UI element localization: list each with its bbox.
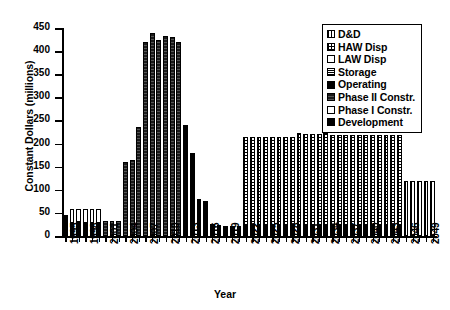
y-axis-tick-label: 250 [33,113,50,124]
bar-segment-haw-disp [377,135,382,226]
legend-swatch-icon [327,81,335,89]
legend-label: Phase II Constr. [338,91,415,104]
x-axis-tick-mark [166,238,167,242]
x-axis-tick-label: 2040 [370,223,381,244]
bar-segment-phase-ii-constr [136,127,141,236]
y-axis-tick-label: 350 [33,67,50,78]
x-axis-tick-mark [426,238,427,242]
legend-label: Development [338,116,403,129]
x-axis-tick-label: 2025 [270,223,281,244]
bar-segment-d-d [404,181,409,236]
bar-segment-haw-disp [363,135,368,226]
x-axis-tick-mark [366,238,367,242]
y-axis-tick: 450 [0,28,62,29]
y-axis-tick-mark [55,213,62,215]
x-axis-tick-label: 2004 [129,223,140,244]
x-axis-tick-label: 2001 [109,223,120,244]
y-axis-tick: 350 [0,74,62,75]
bar-2039 [357,135,362,236]
chart-legend: D&DHAW DispLAW DispStorageOperatingPhase… [322,24,422,133]
bar-2044 [390,135,395,236]
x-axis-tick-mark [105,238,106,242]
x-axis-tick-mark [246,238,247,242]
bar-segment-haw-disp [283,137,288,226]
bar-segment-haw-disp [317,134,322,226]
bar-segment-operating [223,226,228,236]
bar-2006 [136,127,141,236]
x-axis-tick-mark [85,238,86,242]
legend-swatch-icon [327,43,335,51]
x-axis-tick-label: 2037 [350,223,361,244]
bar-segment-haw-disp [243,137,248,226]
y-axis-tick-label: 100 [33,183,50,194]
bar-2026 [270,137,275,236]
bar-2010 [163,36,168,236]
x-axis-tick-mark [386,238,387,242]
y-axis-tick-label: 150 [33,160,50,171]
legend-swatch-icon [327,68,335,76]
bar-segment-haw-disp [257,137,262,226]
bar-segment-haw-disp [397,135,402,226]
bar-segment-operating [384,226,389,236]
y-axis-tick: 0 [0,236,62,237]
x-axis-tick-label: 2049 [430,223,441,244]
bar-segment-haw-disp [343,135,348,226]
y-axis-tick-label: 400 [33,44,50,55]
y-axis-tick-mark [55,74,62,76]
bar-segment-haw-disp [390,135,395,226]
x-axis-tick-label: 2046 [410,223,421,244]
bar-1998 [83,209,88,236]
x-axis-tick-mark [186,238,187,242]
bar-segment-haw-disp [384,135,389,226]
bar-segment-operating [323,226,328,236]
bar-2040 [363,135,368,236]
x-axis-tick-mark [326,238,327,242]
bar-segment-d-d [424,181,429,236]
bar-segment-operating [343,226,348,236]
x-axis-tick-label: 2016 [210,223,221,244]
bar-2042 [377,135,382,236]
bar-2024 [257,137,262,236]
x-axis-tick-mark [406,238,407,242]
bar-segment-haw-disp [303,134,308,226]
bar-2030 [297,133,302,236]
legend-item-d-d: D&D [327,28,415,41]
bar-2009 [156,40,161,236]
legend-item-phase-ii-constr: Phase II Constr. [327,91,415,104]
bar-2019 [223,226,228,236]
bar-2008 [150,33,155,236]
legend-item-operating: Operating [327,78,415,91]
y-axis-tick-mark [55,144,62,146]
x-axis-title: Year [0,288,450,300]
bar-2034 [323,133,328,236]
bar-segment-operating [183,125,188,236]
bar-segment-operating [203,201,208,236]
bar-segment-phase-ii-constr [143,42,148,236]
bar-segment-phase-ii-constr [176,42,181,236]
bar-segment-operating [263,226,268,236]
legend-item-law-disp: LAW Disp [327,53,415,66]
bar-segment-phase-i-constr [90,209,95,223]
bar-2031 [303,134,308,236]
bar-segment-development [63,215,68,236]
x-axis-tick-label: 2013 [190,223,201,244]
y-axis-tick-label: 200 [33,137,50,148]
x-axis-tick-label: 1995 [69,223,80,244]
bar-2041 [370,135,375,236]
bar-2035 [330,135,335,236]
legend-label: D&D [338,28,360,41]
y-axis-tick-label: 0 [44,229,50,240]
y-axis-tick-mark [55,28,62,30]
bar-2007 [143,42,148,236]
x-axis-tick-mark [266,238,267,242]
x-axis-tick-mark [306,238,307,242]
legend-swatch-icon [327,55,335,63]
bar-segment-phase-i-constr [70,209,75,223]
bar-segment-phase-ii-constr [150,33,155,236]
bar-segment-phase-i-constr [76,209,81,222]
bar-2012 [176,42,181,236]
bar-2025 [263,137,268,236]
bar-segment-haw-disp [350,135,355,226]
legend-label: Phase I Constr. [338,104,412,117]
y-axis-tick: 150 [0,167,62,168]
